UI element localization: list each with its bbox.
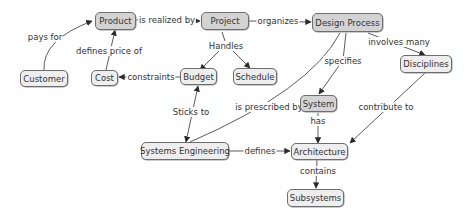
edge-label-contribute-to: contribute to <box>357 102 414 112</box>
edge-label-is-realized-by: is realized by <box>138 15 196 25</box>
node-architecture[interactable]: Architecture <box>291 143 348 160</box>
edge-label-defines: defines <box>243 146 276 156</box>
edge-label-handles: Handles <box>208 41 244 51</box>
node-disciplines[interactable]: Disciplines <box>400 55 452 73</box>
edge-label-involves-many: involves many <box>367 37 431 47</box>
node-design-process[interactable]: Design Process <box>312 13 383 32</box>
node-schedule[interactable]: Schedule <box>233 68 277 85</box>
node-systems-engineering[interactable]: Systems Engineering <box>141 142 229 160</box>
edge-label-defines-price-of: defines price of <box>75 46 143 56</box>
edge-project-budget <box>200 32 226 70</box>
node-cost[interactable]: Cost <box>91 70 118 86</box>
node-project[interactable]: Project <box>201 12 249 30</box>
edge-label-is-prescribed-by: is prescribed by <box>234 102 304 112</box>
node-system[interactable]: System <box>300 95 337 112</box>
concept-map-canvas: pays for is realized by organizes define… <box>0 0 466 221</box>
edge-label-has: has <box>309 116 326 126</box>
node-subsystems[interactable]: Subsystems <box>287 189 344 207</box>
edge-label-pays-for: pays for <box>27 32 63 42</box>
edge-label-organizes: organizes <box>256 16 299 26</box>
edge-label-contains: contains <box>299 166 337 176</box>
node-product[interactable]: Product <box>95 12 136 30</box>
edge-label-sticks-to: Sticks to <box>172 107 210 117</box>
node-budget[interactable]: Budget <box>180 68 217 85</box>
node-customer[interactable]: Customer <box>20 70 68 87</box>
edge-label-specifies: specifies <box>323 56 362 66</box>
edge-label-constraints: constraints <box>126 72 175 82</box>
